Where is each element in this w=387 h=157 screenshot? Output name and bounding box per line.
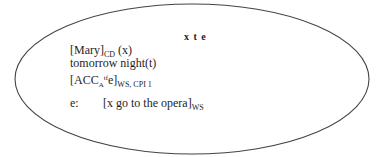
acc-subscript: WS, CPI 1 [117,80,151,89]
ellipse-boundary [0,0,387,157]
condition-tomorrow-night: tomorrow night(t) [70,57,156,69]
condition-event: [x go to the opera]WS [103,97,204,109]
condition-acc: [ACCAtfe]WS, CPI 1 [70,74,152,86]
acc-open: [ACC [70,73,99,87]
event-label: e: [70,97,79,109]
event-subscript: WS [192,103,204,112]
condition-mary: [Mary]CD (x) [70,44,132,56]
drs-diagram: x t e [Mary]CD (x) tomorrow night(t) [AC… [0,0,387,157]
acc-subscript-a: A [99,81,104,89]
event-main: [x go to the opera] [103,96,192,110]
mary-tail: (x) [115,43,132,57]
discourse-referents: x t e [184,31,207,43]
acc-superscript: tf [104,74,108,82]
mary-main: [Mary] [70,43,104,57]
acc-mid: e] [108,73,117,87]
